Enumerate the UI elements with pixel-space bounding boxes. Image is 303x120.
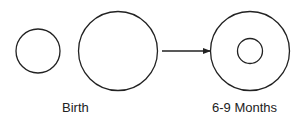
inner-circle — [238, 39, 263, 64]
small-circle — [16, 29, 60, 73]
label-birth: Birth — [62, 100, 89, 115]
growth-diagram: Birth 6-9 Months — [0, 0, 303, 120]
large-circle-6-9-months — [211, 12, 290, 91]
large-circle-birth — [79, 12, 158, 91]
label-6-9-months: 6-9 Months — [212, 100, 278, 115]
